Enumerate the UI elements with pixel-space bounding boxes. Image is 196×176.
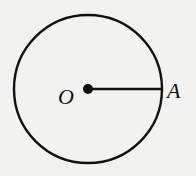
center-point-o	[83, 84, 93, 94]
label-a: A	[165, 78, 181, 103]
label-o: O	[58, 84, 74, 109]
circle-diagram: O A	[0, 0, 196, 176]
